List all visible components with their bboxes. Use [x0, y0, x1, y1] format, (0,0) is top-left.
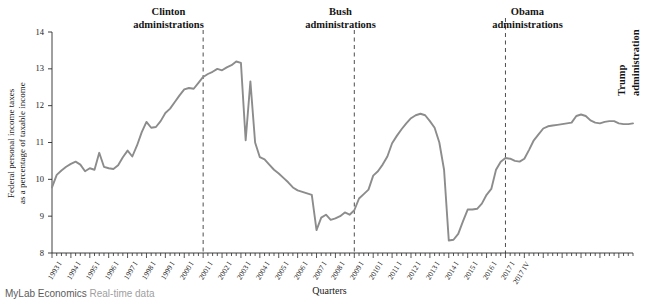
y-axis-title-line-2: as a percentage of taxable income: [17, 56, 27, 231]
y-tick-label: 13: [28, 63, 44, 73]
era-annotation-clinton: Clintonadministrations: [86, 6, 251, 31]
data-line-federal-income-tax-share: [52, 61, 633, 240]
y-tick-label: 11: [28, 137, 44, 147]
era-annotation-obama-line-1: Obama: [445, 6, 610, 19]
era-annotation-bush: Bushadministrations: [258, 6, 423, 31]
y-tick-label: 10: [28, 174, 44, 184]
era-annotation-bush-line-2: administrations: [258, 19, 423, 32]
y-tick-label: 12: [28, 100, 44, 110]
era-annotation-trump-line-2: administration: [630, 6, 643, 96]
era-annotation-clinton-line-1: Clinton: [86, 6, 251, 19]
footer-brand: MyLab Economics: [5, 288, 87, 299]
footer-subtitle: Real-time data: [87, 288, 155, 299]
y-tick-label: 9: [28, 211, 44, 221]
y-axis-title-line-1: Federal personal income taxes: [6, 56, 16, 231]
era-annotation-obama: Obamaadministrations: [445, 6, 610, 31]
y-tick-label: 14: [28, 27, 44, 37]
era-annotation-obama-line-2: administrations: [445, 19, 610, 32]
era-annotation-clinton-line-2: administrations: [86, 19, 251, 32]
chart-figure: 8910111213141993 I1994 I1995 I1996 I1997…: [0, 0, 659, 307]
era-annotation-trump: Trumpadministration: [616, 6, 643, 96]
footer-attribution: MyLab Economics Real-time data: [5, 288, 155, 299]
chart-svg: [0, 0, 659, 307]
y-tick-label: 8: [28, 248, 44, 258]
era-annotation-trump-line-1: Trump: [616, 6, 629, 96]
era-annotation-bush-line-1: Bush: [258, 6, 423, 19]
